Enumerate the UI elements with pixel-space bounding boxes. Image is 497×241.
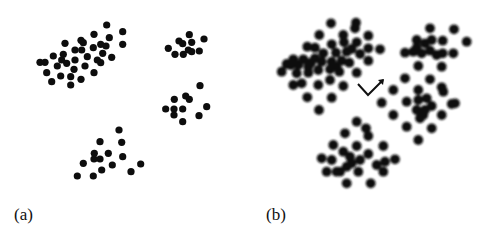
data-point — [327, 39, 337, 49]
panel-b-label: (b) — [266, 206, 286, 223]
data-point — [318, 48, 328, 58]
data-point — [303, 68, 313, 78]
data-point — [314, 105, 324, 115]
data-point — [363, 31, 373, 41]
data-point — [327, 93, 337, 103]
data-point — [340, 128, 350, 138]
data-point — [327, 155, 337, 165]
v-arrow-icon — [358, 79, 384, 95]
data-point — [400, 48, 410, 58]
data-point — [332, 62, 342, 72]
data-point — [322, 167, 332, 177]
data-point — [352, 141, 362, 151]
data-point — [413, 61, 423, 71]
data-point — [331, 48, 341, 58]
data-point — [363, 56, 373, 66]
data-point — [448, 48, 458, 58]
data-point — [310, 43, 320, 53]
data-point — [328, 140, 338, 150]
data-point — [347, 158, 357, 168]
data-point — [438, 87, 448, 97]
data-point — [427, 35, 437, 45]
clustering-figure: (a) (b) — [0, 0, 497, 241]
data-point — [402, 97, 412, 107]
panel-b-cluster-4 — [317, 117, 400, 188]
data-point — [418, 110, 428, 120]
data-point — [314, 30, 324, 40]
data-point — [450, 98, 460, 108]
data-point — [297, 78, 307, 88]
data-point — [402, 122, 412, 132]
data-point — [342, 47, 352, 57]
data-point — [288, 80, 298, 90]
data-point — [313, 80, 323, 90]
data-point — [412, 43, 422, 53]
data-point — [317, 153, 327, 163]
data-point — [325, 75, 335, 85]
data-point — [353, 167, 363, 177]
data-point — [427, 123, 437, 133]
panel-a-label: (a) — [14, 206, 33, 223]
data-point — [363, 43, 373, 53]
data-point — [462, 37, 472, 47]
data-point — [292, 68, 302, 78]
data-point — [377, 98, 387, 108]
data-point — [350, 23, 360, 33]
data-point — [437, 62, 447, 72]
data-point — [375, 44, 385, 54]
data-point — [390, 154, 400, 164]
data-point — [282, 59, 292, 69]
panel-b-cluster-1 — [277, 18, 385, 115]
panel-b-cluster-2 — [400, 23, 472, 71]
data-point — [352, 68, 362, 78]
panel-b-cluster-3 — [377, 73, 460, 145]
data-point — [302, 92, 312, 102]
data-point — [293, 60, 303, 70]
data-point — [378, 167, 388, 177]
data-point — [413, 95, 423, 105]
data-point — [388, 85, 398, 95]
data-point — [352, 117, 362, 127]
data-point — [438, 48, 448, 58]
data-point — [366, 178, 376, 188]
data-point — [355, 49, 365, 59]
data-point — [313, 65, 323, 75]
data-point — [425, 23, 435, 33]
data-point — [437, 110, 447, 120]
data-point — [306, 58, 316, 68]
data-point — [344, 58, 354, 68]
data-point — [363, 131, 373, 141]
data-point — [378, 141, 388, 151]
data-point — [326, 18, 336, 28]
data-point — [425, 74, 435, 84]
data-point — [335, 167, 345, 177]
data-point — [363, 149, 373, 159]
data-point — [339, 37, 349, 47]
data-point — [400, 73, 410, 83]
data-point — [413, 85, 423, 95]
data-point — [438, 36, 448, 46]
data-point — [413, 135, 423, 145]
data-point — [449, 24, 459, 34]
data-point — [342, 178, 352, 188]
data-point — [388, 110, 398, 120]
panel-b-scatter — [0, 0, 497, 241]
data-point — [338, 81, 348, 91]
